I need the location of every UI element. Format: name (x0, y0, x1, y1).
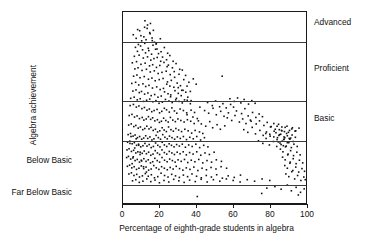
level-label-proficient: Proficient (314, 63, 349, 73)
band-boundary-line (123, 101, 306, 102)
x-tick-label: 100 (292, 209, 322, 219)
plot-area (122, 11, 307, 204)
level-label-basic: Basic (314, 113, 334, 123)
x-tick-label: 0 (107, 209, 137, 219)
x-tick-mark (196, 205, 197, 208)
x-tick-label: 20 (144, 209, 174, 219)
x-tick-mark (122, 205, 123, 208)
x-tick-label: 80 (255, 209, 285, 219)
x-tick-mark (307, 205, 308, 208)
x-tick-mark (233, 205, 234, 208)
algebra-achievement-scatter-figure: Algebra achievement Advanced Proficient … (0, 0, 377, 246)
x-tick-mark (270, 205, 271, 208)
x-tick-label: 60 (218, 209, 248, 219)
band-boundary-line (123, 141, 306, 142)
x-axis-label: Percentage of eighth-grade students in a… (0, 223, 377, 233)
level-label-advanced: Advanced (314, 17, 351, 27)
x-tick-mark (159, 205, 160, 208)
level-label-below-basic: Below Basic (26, 155, 72, 165)
scatter-points-layer (123, 12, 306, 203)
band-boundary-line (123, 185, 306, 186)
band-boundary-line (123, 42, 306, 43)
x-tick-label: 40 (181, 209, 211, 219)
y-axis-label: Algebra achievement (28, 10, 38, 200)
x-axis-line (122, 204, 308, 205)
level-label-far-below-basic: Far Below Basic (11, 187, 72, 197)
